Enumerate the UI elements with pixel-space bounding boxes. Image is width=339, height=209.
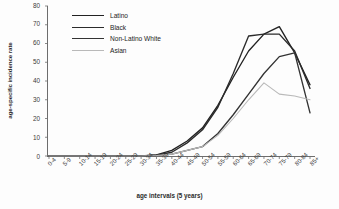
chart-container: age-specific incidence rate 010203040506… [0,0,339,209]
y-axis-tick-20: 20 [20,116,40,122]
y-axis-tick-labels: 01020304050607080 [18,0,40,165]
legend-item-asian[interactable]: Asian [72,45,192,57]
legend-label: Black [110,24,126,31]
chart-legend: LatinoBlackNon-Latino WhiteAsian [72,10,192,56]
y-axis-title: age-specific incidence rate [2,0,16,160]
legend-item-latino[interactable]: Latino [72,10,192,22]
y-axis-tick-50: 50 [20,59,40,65]
legend-item-black[interactable]: Black [72,22,192,34]
y-axis-tick-0: 0 [20,154,40,160]
x-axis-tick-0-4: 0-4 [46,156,57,167]
series-line-non-latino-white [49,53,310,156]
x-axis-tick-5-9: 5-9 [61,156,72,167]
legend-label: Asian [110,47,127,54]
legend-label: Latino [110,12,128,19]
y-axis-title-text: age-specific incidence rate [6,42,13,118]
legend-item-non-latino-white[interactable]: Non-Latino White [72,33,192,45]
legend-swatch-icon [72,50,104,51]
legend-swatch-icon [72,38,104,39]
y-axis-tick-70: 70 [20,21,40,27]
x-axis-title: age intervals (5 years) [0,192,339,199]
x-axis-tick-labels: 0-45-910-1415-1920-2425-2930-3435-3940-4… [47,158,317,194]
y-axis-tick-30: 30 [20,97,40,103]
y-axis-tick-60: 60 [20,40,40,46]
y-axis-tick-40: 40 [20,78,40,84]
legend-swatch-icon [72,27,104,28]
y-axis-tick-10: 10 [20,135,40,141]
y-axis-tick-80: 80 [20,3,40,9]
legend-swatch-icon [72,15,104,16]
legend-label: Non-Latino White [110,35,161,42]
